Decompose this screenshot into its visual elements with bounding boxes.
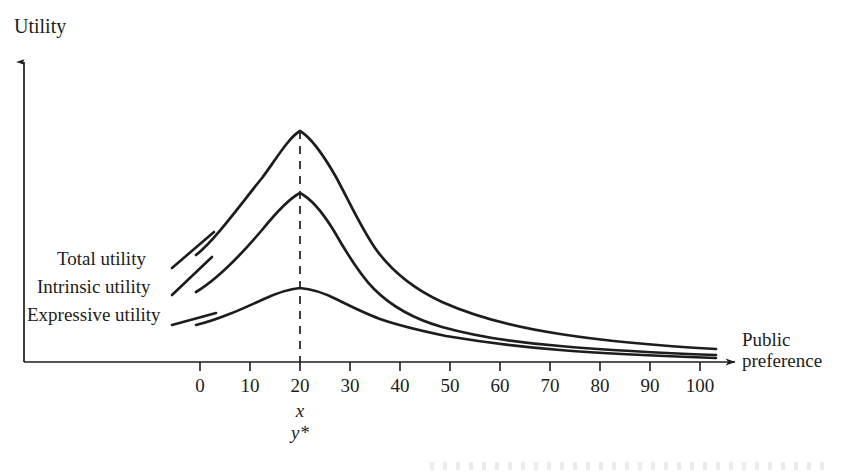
x-tick-label-30: 30	[330, 376, 370, 396]
y-axis-title: Utility	[14, 16, 66, 37]
x-tick-label-40: 40	[380, 376, 420, 396]
label-leader-lines	[172, 232, 216, 325]
curve-label-intrinsic-utility: Intrinsic utility	[37, 277, 150, 297]
curve-expressive-utility	[196, 288, 716, 358]
x-tick-label-10: 10	[230, 376, 270, 396]
x-tick-label-20: 20	[280, 376, 320, 396]
x-axis-ticks	[200, 362, 700, 371]
x-tick-label-70: 70	[530, 376, 570, 396]
x-tick-label-60: 60	[480, 376, 520, 396]
x-tick-label-50: 50	[430, 376, 470, 396]
x-tick-label-0: 0	[180, 376, 220, 396]
curve-label-expressive-utility: Expressive utility	[27, 305, 161, 325]
curve-total-utility	[196, 131, 716, 349]
scan-artifact-bottom-text	[430, 462, 830, 470]
x-axis-title: Public preference	[742, 329, 850, 372]
x-tick-label-100: 100	[680, 376, 720, 396]
x-tick-label-80: 80	[580, 376, 620, 396]
x-axis-title-line1: Public	[742, 329, 791, 350]
utility-vs-public-preference-figure: Utility Public preference Total utility …	[0, 0, 850, 473]
curve-intrinsic-utility	[196, 193, 716, 355]
x-tick-label-90: 90	[630, 376, 670, 396]
chart-canvas	[0, 0, 850, 473]
x-axis-title-line2: preference	[742, 350, 822, 371]
curve-label-total-utility: Total utility	[57, 249, 146, 269]
annotation-x: x	[280, 401, 320, 421]
leader-line-expressive	[172, 313, 216, 325]
annotation-y-star: y*	[280, 423, 320, 443]
